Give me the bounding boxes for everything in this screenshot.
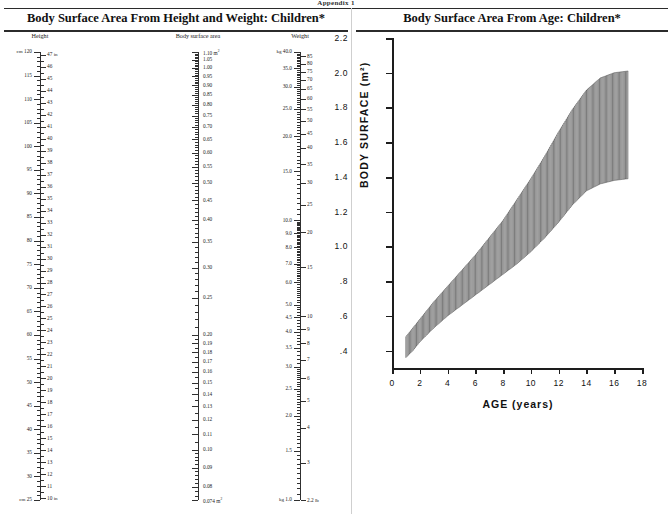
x-tick <box>531 368 533 374</box>
bsa-label: 0.45 <box>203 198 212 203</box>
height-in-label: 20 <box>47 376 52 381</box>
x-tick-label: 8 <box>491 378 515 388</box>
weight-kg-label: kg 40.0 <box>248 49 292 54</box>
y-tick <box>386 73 392 75</box>
weight-lb-label: 45 <box>307 131 312 136</box>
running-head: Appendix 1 <box>0 0 672 7</box>
bsa-label: 0.90 <box>203 83 212 88</box>
height-in-label: 22 <box>47 352 52 357</box>
bsa-label: 0.14 <box>203 392 212 397</box>
x-tick <box>503 368 505 374</box>
height-in-label: 31 <box>47 244 52 249</box>
weight-kg-label: 7.0 <box>248 261 292 266</box>
y-tick <box>386 351 392 353</box>
bsa-label: 0.12 <box>203 417 212 422</box>
height-cm-label: 65 <box>0 309 32 314</box>
weight-kg-label: 4.0 <box>248 329 292 334</box>
y-tick-label: .8 <box>340 276 348 286</box>
bsa-label: 0.08 <box>203 484 212 489</box>
x-tick-label: 0 <box>380 378 404 388</box>
weight-lb-label: 25 <box>307 202 312 207</box>
bsa-label: 0.18 <box>203 350 212 355</box>
weight-kg-label: 8.0 <box>248 245 292 250</box>
height-in-label: 25 <box>47 316 52 321</box>
height-in-label: 36 <box>47 184 52 189</box>
height-cm-label: 40 <box>0 427 32 432</box>
weight-kg-label: 2.0 <box>248 413 292 418</box>
y-tick <box>386 177 392 179</box>
bsa-label: 0.75 <box>203 113 212 118</box>
weight-kg-label: 35.0 <box>248 66 292 71</box>
height-in-label: 47 in <box>47 52 58 57</box>
height-in-label: 28 <box>47 280 52 285</box>
weight-lb-label: 6 <box>307 376 310 381</box>
weight-lb-label: 65 <box>307 86 312 91</box>
right-panel-title: Body Surface Area From Age: Children* <box>356 11 668 26</box>
appendix-page: Appendix 1 Body Surface Area From Height… <box>0 0 672 514</box>
y-tick <box>386 246 392 248</box>
height-in-label: 17 <box>47 412 52 417</box>
height-scale-heading: Height <box>18 32 62 39</box>
bsa-scale-heading: Body surface area <box>160 32 236 39</box>
weight-kg-label: 20.0 <box>248 134 292 139</box>
weight-kg-label: 3.0 <box>248 364 292 369</box>
age-bsa-chart: .4.6.81.01.21.41.61.82.02.20246810121416… <box>356 30 672 514</box>
y-tick <box>386 107 392 109</box>
bsa-label: 1.05 <box>203 57 212 62</box>
x-axis-title: AGE (years) <box>392 398 644 410</box>
x-tick-label: 12 <box>547 378 571 388</box>
height-in-label: 29 <box>47 268 52 273</box>
weight-lb-label: 3 <box>307 460 310 465</box>
weight-lb-label: 70 <box>307 77 312 82</box>
weight-lb-label: 4 <box>307 425 310 430</box>
top-rule <box>4 8 668 9</box>
weight-kg-label: 10.0 <box>248 218 292 223</box>
y-tick-label: 1.4 <box>334 172 348 182</box>
weight-kg-label: 6.0 <box>248 280 292 285</box>
panel-divider <box>351 8 352 514</box>
bsa-label: 0.30 <box>203 265 212 270</box>
height-in-label: 45 <box>47 76 52 81</box>
plot-area: .4.6.81.01.21.41.61.82.02.20246810121416… <box>392 38 642 368</box>
weight-lb-label: 15 <box>307 265 312 270</box>
height-cm-label: cm 120 <box>0 49 32 54</box>
height-in-label: 40 <box>47 136 52 141</box>
height-cm-label: 60 <box>0 332 32 337</box>
bsa-label: 0.17 <box>203 359 212 364</box>
height-in-label: 19 <box>47 388 52 393</box>
bsa-label: 0.25 <box>203 295 212 300</box>
height-in-label: 21 <box>47 364 52 369</box>
weight-kg-label: 3.5 <box>248 345 292 350</box>
height-cm-label: cm 25 <box>0 497 32 502</box>
weight-lb-label: 5 <box>307 398 310 403</box>
bsa-label: 0.20 <box>203 332 212 337</box>
bsa-label: 0.11 <box>203 432 212 437</box>
bsa-label: 0.16 <box>203 369 212 374</box>
height-cm-label: 110 <box>0 97 32 102</box>
x-tick-label: 16 <box>602 378 626 388</box>
height-in-label: 44 <box>47 88 52 93</box>
weight-kg-label: 9.0 <box>248 231 292 236</box>
height-cm-label: 50 <box>0 380 32 385</box>
y-tick-label: .4 <box>340 346 348 356</box>
height-cm-label: 95 <box>0 167 32 172</box>
weight-lb-label: 20 <box>307 230 312 235</box>
y-tick <box>386 38 392 40</box>
weight-lb-label: 50 <box>307 118 312 123</box>
bsa-label: 0.50 <box>203 180 212 185</box>
bsa-label: 0.60 <box>203 150 212 155</box>
x-tick <box>420 368 422 374</box>
x-tick-label: 14 <box>574 378 598 388</box>
nomogram: Height Body surface area Weight cm 25303… <box>0 30 351 514</box>
height-in-label: 13 <box>47 460 52 465</box>
height-in-label: 11 <box>47 484 52 489</box>
height-in-label: 32 <box>47 232 52 237</box>
bsa-label: 0.70 <box>203 124 212 129</box>
x-tick-label: 2 <box>408 378 432 388</box>
height-in-label: 41 <box>47 124 52 129</box>
y-tick-label: 2.2 <box>334 33 348 43</box>
weight-lb-label: 2.2 lb <box>307 498 319 503</box>
bsa-label: 0.55 <box>203 164 212 169</box>
y-tick <box>386 316 392 318</box>
bsa-label: 0.65 <box>203 137 212 142</box>
